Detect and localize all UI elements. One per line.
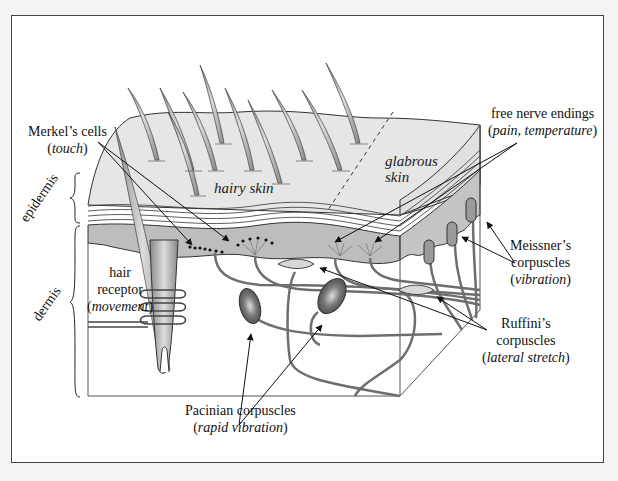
ruffini-line2: corpuscles — [496, 333, 555, 348]
pacinian-label: Pacinian corpuscles (rapid vibration) — [185, 402, 296, 436]
glabrous-line2: skin — [385, 169, 409, 185]
ruffini-label: Ruffini’s corpuscles (lateral stretch) — [482, 315, 570, 366]
merkel-name: Merkel’s cells — [28, 124, 107, 139]
hair-receptor-line1: hair — [109, 265, 131, 280]
ruffini-function: lateral stretch — [487, 350, 565, 365]
meissner-label: Meissner’s corpuscles (vibration) — [510, 237, 571, 288]
hair-receptor-label: hair receptor (movement) — [87, 264, 153, 315]
free-nerve-name: free nerve endings — [491, 106, 594, 121]
pacinian-name: Pacinian corpuscles — [185, 403, 296, 418]
merkel-cells-label: Merkel’s cells (touch) — [28, 123, 107, 157]
layer-braces — [70, 173, 80, 397]
hair-receptor-function: movement — [92, 299, 149, 314]
pacinian-function: rapid vibration — [198, 420, 283, 435]
meissner-line1: Meissner’s — [510, 238, 571, 253]
free-nerve-endings-label: free nerve endings (pain, temperature) — [488, 105, 597, 139]
pacinian-corpuscles — [236, 274, 352, 326]
ruffini-line1: Ruffini’s — [501, 316, 551, 331]
meissner-line2: corpuscles — [511, 255, 570, 270]
glabrous-line1: glabrous — [385, 153, 438, 169]
hairy-skin-label: hairy skin — [214, 180, 274, 196]
hair-receptor-line2: receptor — [97, 282, 143, 297]
merkel-function: touch — [52, 141, 83, 156]
meissner-function: vibration — [515, 272, 566, 287]
glabrous-skin-label: glabrous skin — [385, 153, 438, 185]
free-nerve-function: pain, temperature — [493, 123, 593, 138]
